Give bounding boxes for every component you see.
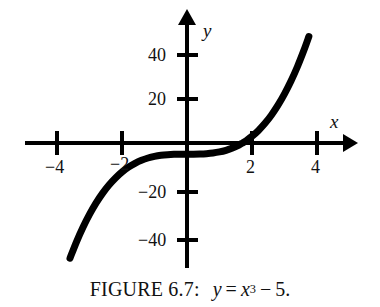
curve-y-equals-x-cubed-minus-5 — [70, 37, 309, 259]
x-tick-label-2: 2 — [246, 158, 255, 176]
caption-variable-x: x — [241, 278, 250, 301]
y-axis-label: y — [203, 21, 211, 40]
x-tick-label--4: −4 — [45, 158, 64, 176]
caption-prefix: FIGURE 6.7: — [90, 278, 200, 301]
figure-caption: FIGURE 6.7: y = x3 − 5. — [0, 272, 380, 307]
x-axis-label: x — [330, 112, 338, 131]
plot-area: −4 −2 2 4 40 20 −20 −40 y x — [0, 0, 380, 272]
y-tick-label-40: 40 — [148, 46, 166, 64]
caption-variable-y: y — [213, 278, 222, 301]
caption-constant: 5 — [275, 278, 285, 301]
caption-minus-sign: − — [256, 278, 275, 301]
x-tick-label-4: 4 — [311, 158, 320, 176]
caption-period: . — [285, 278, 290, 301]
caption-equals-sign: = — [222, 278, 241, 301]
y-axis-arrow-icon — [178, 9, 196, 25]
x-axis-arrow-icon — [343, 134, 358, 152]
cubic-function-plot — [0, 0, 380, 272]
x-tick-label--2: −2 — [110, 155, 129, 173]
figure-container: −4 −2 2 4 40 20 −20 −40 y x FIGURE 6.7: … — [0, 0, 380, 307]
y-tick-label--20: −20 — [138, 183, 166, 201]
y-tick-label-20: 20 — [148, 90, 166, 108]
y-tick-label--40: −40 — [138, 231, 166, 249]
